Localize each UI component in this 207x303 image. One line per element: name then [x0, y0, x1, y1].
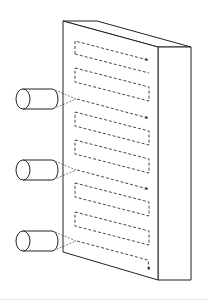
cylinder-end: [16, 231, 30, 251]
panel: [63, 21, 191, 280]
laser-scan-diagram: [0, 0, 207, 303]
cylinder-end: [16, 160, 30, 180]
panel-side-face: [158, 47, 191, 280]
cylinder-end: [16, 89, 30, 109]
bottom-divider: [0, 299, 207, 300]
